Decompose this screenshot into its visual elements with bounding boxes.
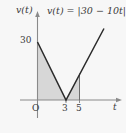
equation-annotation: v(t) = |30 − 10t| [47, 6, 126, 16]
x-tick-label-5: 5 [76, 104, 82, 113]
velocity-graph-figure: v(t) v(t) = |30 − 10t| 30 O 3 5 t [0, 0, 126, 133]
shaded-area-region [38, 42, 80, 100]
y-tick-label-30: 30 [20, 36, 31, 45]
y-axis-arrow-icon [35, 11, 40, 17]
x-tick-label-3: 3 [62, 104, 68, 113]
y-axis-label: v(t) [16, 5, 33, 15]
origin-label: O [32, 104, 39, 113]
plot-canvas [0, 0, 126, 133]
x-axis-label: t [113, 103, 117, 112]
